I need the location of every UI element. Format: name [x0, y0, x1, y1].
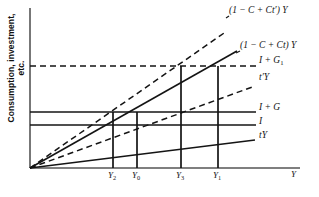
label-leader-dashes: [226, 16, 240, 53]
x-tick-label-y0: Y0: [132, 171, 140, 181]
x-tick-label-y1-subscript: 1: [218, 174, 221, 181]
x-tick-label-y2: Y2: [108, 171, 116, 181]
x-tick-label-y0-subscript: 0: [137, 174, 140, 181]
curve-label-t-prime-y: t′Y: [259, 73, 269, 83]
axes: [30, 8, 300, 168]
level-label-i-plus-g1: I + G1: [259, 56, 284, 66]
leader-dash-ct-prime: [226, 16, 229, 18]
ray-1-minus-c-plus-ct-y: [30, 51, 237, 168]
x-tick-label-y3-subscript: 3: [181, 174, 184, 181]
x-tick-label-y1: Y1: [213, 171, 221, 181]
ray-t-prime-y: [30, 86, 255, 168]
horizontal-level-lines: [30, 66, 256, 125]
curve-label-t-y: tY: [259, 131, 267, 141]
level-label-i: I: [259, 117, 262, 127]
curve-label-ct-prime: (1 − C + Ct′) Y: [229, 6, 287, 16]
economics-figure: Consumption, investment, etc.: [0, 0, 319, 197]
ray-lines: [30, 31, 255, 168]
x-tick-label-y3: Y3: [176, 171, 184, 181]
x-tick-label-y2-subscript: 2: [113, 174, 116, 181]
level-label-i-plus-g1-subscript: 1: [280, 59, 283, 66]
x-axis-label: Y: [291, 170, 296, 179]
drop-lines: [113, 66, 218, 168]
level-label-i-plus-g: I + G: [259, 103, 280, 113]
plot-canvas: [0, 0, 319, 197]
curve-label-ct: (1 − C + Ct) Y: [240, 41, 296, 51]
